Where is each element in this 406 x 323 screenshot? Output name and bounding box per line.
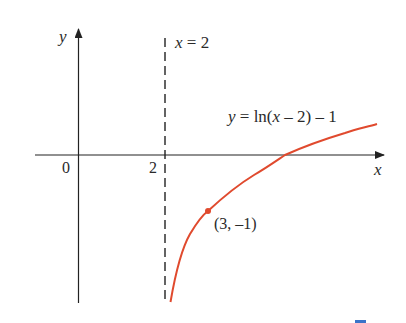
point-marker — [205, 208, 211, 214]
asymptote-eq: = 2 — [183, 33, 210, 52]
asymptote-label: x = 2 — [174, 33, 209, 52]
eq-y: y — [226, 107, 236, 126]
tick-label-2: 2 — [149, 159, 157, 176]
curve-equation-label: y = ln(x – 2) – 1 — [226, 107, 337, 126]
eq-tail: – 2) – 1 — [280, 107, 337, 126]
eq-mid: = ln( — [236, 107, 273, 126]
log-curve — [171, 124, 378, 302]
x-axis-label: x — [373, 160, 382, 179]
y-axis-label: y — [57, 27, 67, 46]
origin-label: 0 — [62, 159, 70, 176]
function-graph: y x 0 2 x = 2 y = ln(x – 2) – 1 (3, –1) — [0, 0, 406, 323]
point-label: (3, –1) — [214, 215, 257, 233]
